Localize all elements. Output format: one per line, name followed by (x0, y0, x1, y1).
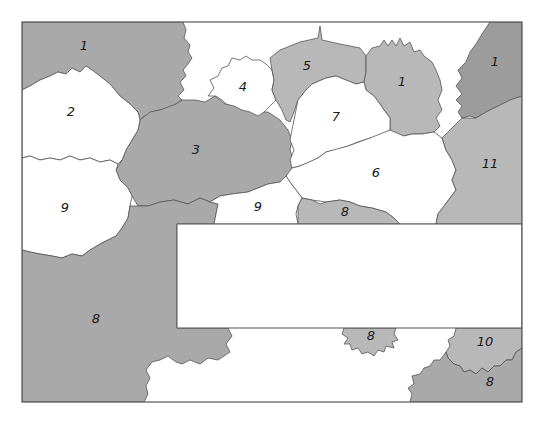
label-region-5: 5 (303, 58, 311, 73)
label-region-1-top-right: 1 (491, 54, 499, 69)
label-region-9-left: 9 (61, 200, 69, 215)
label-region-8-left: 8 (92, 311, 100, 326)
label-region-1-top-left: 1 (80, 38, 88, 53)
label-region-2: 2 (67, 104, 75, 119)
label-region-1-middle: 1 (398, 74, 406, 89)
label-region-8-bottom-right: 8 (486, 374, 494, 389)
map-regions (22, 22, 522, 402)
label-region-11: 11 (482, 156, 499, 171)
label-region-3: 3 (192, 142, 200, 157)
label-region-7: 7 (332, 109, 341, 124)
label-region-8-middle: 8 (341, 204, 349, 219)
region-map: 1 2 4 5 1 1 7 3 6 11 9 9 8 8 8 10 8 (0, 0, 546, 426)
label-region-8-small: 8 (367, 328, 375, 343)
label-region-10: 10 (477, 334, 494, 349)
label-region-9-middle: 9 (254, 199, 262, 214)
inset-box (177, 224, 522, 328)
label-region-6: 6 (372, 165, 380, 180)
label-region-4: 4 (239, 79, 247, 94)
